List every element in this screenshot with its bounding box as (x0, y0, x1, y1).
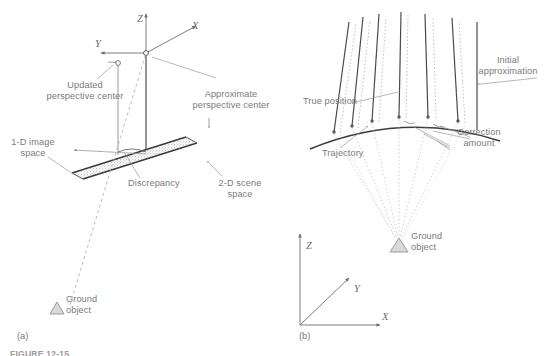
figure-caption: FIGURE 12-15 (10, 349, 69, 356)
panel-b-ground-object-label-line1: Ground (411, 231, 442, 242)
leader-initial-approximation (481, 78, 537, 84)
convergence-ray-5 (400, 119, 428, 238)
panel-b-label: (b) (299, 330, 310, 341)
center-shift-arrow (108, 62, 117, 63)
panel-b-z-axis-label: Z (306, 240, 312, 251)
panel-b-y-axis-label: Y (354, 283, 360, 294)
convergence-ray-3 (372, 123, 398, 238)
true-position-line-1 (334, 22, 349, 132)
discrepancy-label: Discrepancy (128, 178, 180, 189)
initial-approximation-label-line1: Initial (470, 55, 546, 66)
x-axis-line (146, 26, 196, 53)
image-space-label-line2: space (2, 148, 64, 159)
true-position-line-3 (372, 14, 379, 121)
true-position-line-2 (352, 17, 363, 126)
station-dot-4 (397, 115, 400, 118)
scene-space-bottom-edge (83, 143, 197, 179)
leader-approximate-center (152, 57, 216, 78)
trajectory-label: Trajectory (322, 148, 364, 159)
scene-space-top-edge (72, 137, 186, 173)
image-space-axis-line (74, 150, 146, 154)
convergence-ray-2 (352, 128, 397, 238)
leader-scene-space (207, 161, 222, 176)
panel-a-label: (a) (17, 330, 28, 341)
panel-b-x-axis-label: X (382, 311, 388, 322)
approximation-dotted-6 (459, 21, 465, 123)
initial-approximation-label-line2: approximation (470, 66, 546, 77)
scene-space-label-line2: space (207, 189, 273, 200)
station-dot-6 (456, 119, 459, 122)
figure-canvas: Z X Y Updated perspective center Approxi… (0, 0, 547, 356)
approximation-dotted-1 (340, 24, 356, 133)
panel-a-ground-object-label-line2: object (66, 305, 91, 316)
ground-object-marker-b (390, 238, 408, 252)
true-position-line-6 (452, 18, 458, 121)
true-position-line-5 (425, 14, 428, 117)
station-dot-5 (426, 115, 429, 118)
approximation-dotted-3 (379, 17, 386, 122)
approximation-dotted-2 (358, 20, 370, 128)
panel-a-z-axis-label: Z (137, 13, 143, 24)
station-dot-3 (370, 119, 373, 122)
image-space-label-line1: 1-D image (2, 137, 64, 148)
approximate-perspective-center-label-line2: perspective center (176, 100, 286, 111)
approximation-dotted-4 (406, 15, 408, 118)
updated-perspective-center-marker (116, 61, 121, 66)
scene-space-parallelogram (72, 137, 197, 179)
correction-amount-label-line1: Correction (443, 127, 515, 138)
correction-arc-2 (404, 121, 415, 124)
approximate-perspective-center-label-line1: Approximate (176, 89, 286, 100)
updated-perspective-center-label-line1: Updated (22, 80, 148, 91)
station-dot-2 (350, 124, 353, 127)
updated-perspective-center-label-line2: perspective center (22, 91, 148, 102)
panel-a-x-axis-label: X (192, 20, 198, 31)
panel-a-y-axis-label: Y (95, 38, 101, 49)
true-position-label: True position (303, 96, 357, 107)
panel-a-axis-triad (101, 14, 196, 53)
panel-b-ground-object-label-line2: object (411, 242, 436, 253)
ground-object-marker-a (50, 302, 64, 314)
panel-a-ground-object-label-line1: Ground (66, 294, 97, 305)
leader-true-position (352, 92, 398, 103)
leader-image-space (48, 157, 73, 174)
approximation-dotted-5 (433, 17, 436, 118)
correction-amount-label-line2: amount (443, 138, 515, 149)
scene-space-label-line1: 2-D scene (207, 178, 273, 189)
leader-updated-center (97, 65, 113, 79)
true-position-line-4 (399, 12, 401, 117)
station-dot-1 (332, 130, 335, 133)
panel-b-y-axis-line (300, 278, 349, 325)
